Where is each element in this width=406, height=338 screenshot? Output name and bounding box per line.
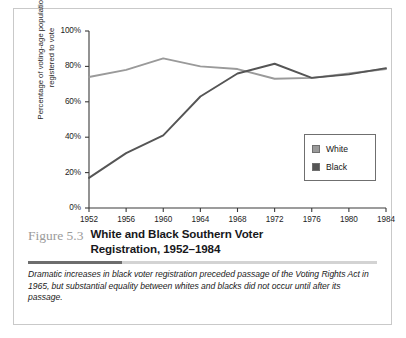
axes-group (89, 31, 386, 208)
y-tick-label: 80% (47, 61, 81, 70)
legend-swatch-icon (312, 145, 320, 153)
chart-legend: WhiteBlack (304, 134, 376, 181)
legend-item-white: White (312, 140, 375, 158)
figure-title-line-2: Registration, 1952–1984 (91, 242, 221, 255)
legend-swatch-icon (312, 163, 320, 171)
legend-item-black: Black (312, 158, 375, 176)
figure-number: Figure 5.3 (28, 227, 84, 244)
y-tick-label: 40% (47, 132, 81, 141)
line-chart-plot (14, 9, 391, 221)
y-tick-label: 100% (47, 26, 81, 35)
figure-title-line-1: White and Black Southern Voter (91, 227, 264, 240)
legend-label: White (326, 144, 348, 154)
figure-title: White and Black Southern Voter Registrat… (91, 227, 264, 256)
caption-heading: Figure 5.3 White and Black Southern Vote… (28, 227, 377, 256)
caption-text: Dramatic increases in black voter regist… (28, 269, 377, 304)
legend-label: Black (326, 162, 347, 172)
y-tick-marks (85, 31, 89, 208)
figure-container: Percentage of voting-age population regi… (13, 8, 392, 325)
x-tick-marks (89, 208, 386, 212)
caption-divider (28, 261, 377, 264)
chart-region: Percentage of voting-age population regi… (14, 9, 391, 221)
y-tick-label: 60% (47, 97, 81, 106)
y-tick-label: 20% (47, 168, 81, 177)
caption-divider-accent (28, 261, 122, 264)
y-tick-label: 0% (47, 203, 81, 212)
figure-caption: Figure 5.3 White and Black Southern Vote… (14, 221, 391, 304)
